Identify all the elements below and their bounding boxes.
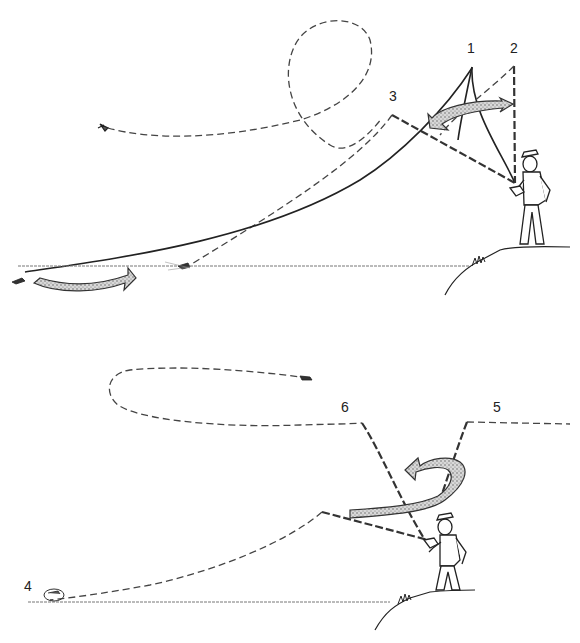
angler-figure-top — [510, 150, 550, 244]
label-position-2: 2 — [510, 40, 518, 56]
river-bank-bottom — [375, 590, 475, 630]
rod-position-2 — [514, 66, 515, 183]
fly-start-icon — [12, 278, 25, 284]
label-position-5: 5 — [493, 399, 501, 415]
fly-icon-forward — [300, 376, 312, 380]
bottom-panel — [28, 368, 570, 630]
label-position-3: 3 — [389, 88, 397, 104]
label-position-4: 4 — [24, 578, 32, 594]
line-position-5 — [467, 422, 570, 424]
label-position-6: 6 — [341, 399, 349, 415]
motion-arrow-forward — [350, 458, 465, 518]
fly-casting-diagram — [0, 0, 580, 643]
rod-position-6 — [362, 423, 425, 540]
line-position-1 — [25, 68, 472, 272]
motion-arrow-lift — [34, 268, 136, 291]
motion-arrow-back — [428, 98, 513, 130]
line-loop-forward — [109, 368, 362, 426]
top-panel — [12, 21, 570, 295]
line-loop — [108, 21, 382, 149]
fly-landing-icon — [44, 589, 64, 601]
line-to-water — [50, 512, 322, 600]
fly-icon — [98, 124, 108, 131]
angler-figure-bottom — [424, 513, 466, 590]
river-bank — [445, 246, 570, 295]
label-position-1: 1 — [467, 40, 475, 56]
line-position-3 — [190, 115, 392, 265]
